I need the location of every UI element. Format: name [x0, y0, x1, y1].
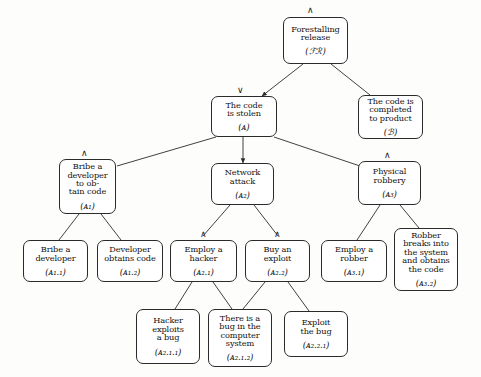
edge-A21-to-A211: [175, 282, 192, 309]
attack-tree-diagram: Forestalling release(ℱℛ)∧The code is sto…: [0, 0, 481, 377]
node-identifier: (ᴀ): [238, 122, 249, 132]
node-identifier: (ℬ): [384, 127, 397, 137]
edge-A3-to-A32: [400, 205, 419, 228]
gate-icon-fr: ∧: [307, 6, 314, 15]
node-identifier: (ᴀ₃): [382, 189, 397, 199]
edge-A-to-A1: [117, 137, 216, 166]
node-identifier: (ᴀ₃.₂): [416, 278, 437, 288]
node-a2[interactable]: Network attack(ᴀ₂): [211, 163, 274, 205]
node-label: Employ a robber: [335, 245, 373, 262]
gate-icon-a21: ∧: [200, 230, 207, 239]
edge-A2-to-A21: [203, 205, 230, 236]
node-a22[interactable]: Buy an exploit(ᴀ₂.₂): [245, 240, 310, 282]
node-identifier: (ᴀ₁.₁): [45, 267, 66, 277]
node-label: The code is completed to product: [367, 97, 413, 122]
edge-A1-to-A12: [101, 214, 121, 240]
gate-icon-a3: ∧: [384, 151, 391, 160]
edge-FR-to-B: [331, 64, 370, 95]
edge-FR-to-A: [262, 64, 303, 96]
node-a32[interactable]: Robber breaks into the system and obtain…: [394, 228, 458, 291]
node-a21[interactable]: Employ a hacker(ᴀ₂.₁): [170, 240, 237, 282]
node-label: Bribe a developer: [35, 245, 75, 262]
node-a31[interactable]: Employ a robber(ᴀ₃.₁): [321, 240, 387, 282]
node-label: Robber breaks into the system and obtain…: [402, 231, 449, 273]
node-a221[interactable]: Exploit the bug(ᴀ₂.₂.₁): [284, 311, 348, 357]
node-fr[interactable]: Forestalling release(ℱℛ): [283, 17, 348, 64]
edge-A22-to-A221: [288, 282, 309, 311]
node-label: There is a bug in the computer system: [219, 314, 260, 348]
node-label: Bribe a developer to ob- tain code: [67, 162, 107, 196]
edge-A22-to-A212: [243, 282, 265, 309]
gate-icon-a: ∨: [237, 86, 244, 95]
node-label: Forestalling release: [291, 25, 339, 42]
node-a[interactable]: The code is stolen(ᴀ): [211, 96, 277, 137]
edge-A21-to-A212: [213, 282, 232, 309]
edge-A1-to-A11: [59, 214, 79, 240]
node-identifier: (ᴀ₃.₁): [344, 267, 365, 277]
node-b[interactable]: The code is completed to product(ℬ): [358, 95, 423, 139]
node-label: Buy an exploit: [263, 245, 291, 262]
node-a211[interactable]: Hacker exploits a bug(ᴀ₂.₁.₁): [136, 309, 200, 364]
node-identifier: (ᴀ₂.₂): [267, 267, 288, 277]
node-identifier: (ℱℛ): [305, 46, 325, 56]
node-identifier: (ᴀ₂.₁): [193, 267, 214, 277]
edge-A3-to-A31: [357, 205, 380, 240]
node-label: The code is stolen: [226, 101, 263, 118]
node-a212[interactable]: There is a bug in the computer system(ᴀ₂…: [208, 309, 272, 367]
node-a3[interactable]: Physical robbery(ᴀ₃): [358, 161, 421, 205]
node-label: Hacker exploits a bug: [152, 316, 184, 341]
node-identifier: (ᴀ₂.₁.₂): [227, 352, 254, 362]
node-identifier: (ᴀ₂): [235, 190, 250, 200]
node-a1[interactable]: Bribe a developer to ob- tain code(ᴀ₁): [59, 159, 116, 214]
node-identifier: (ᴀ₁.₂): [120, 267, 141, 277]
node-label: Exploit the bug: [300, 318, 331, 335]
edge-A-to-A3: [274, 137, 360, 166]
node-identifier: (ᴀ₂.₂.₁): [303, 340, 330, 350]
node-identifier: (ᴀ₂.₁.₁): [155, 347, 182, 357]
node-label: Employ a hacker: [185, 245, 223, 262]
gate-icon-a1: ∧: [81, 149, 88, 158]
gate-icon-a22: ∧: [274, 230, 281, 239]
node-a11[interactable]: Bribe a developer(ᴀ₁.₁): [23, 240, 88, 282]
node-label: Physical robbery: [373, 167, 407, 184]
node-a12[interactable]: Developer obtains code(ᴀ₁.₂): [97, 240, 163, 282]
node-label: Developer obtains code: [104, 245, 155, 262]
node-identifier: (ᴀ₁): [80, 201, 95, 211]
node-label: Network attack: [225, 168, 260, 185]
